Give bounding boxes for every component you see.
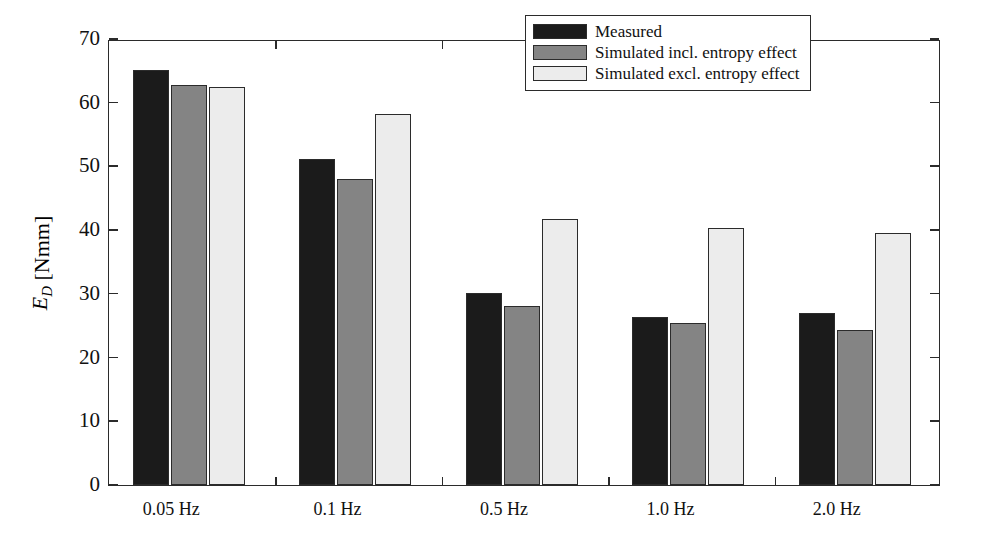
bar-measured: [632, 317, 668, 485]
bar-sim-excl: [708, 228, 744, 485]
legend-swatch: [533, 66, 587, 81]
x-axis-tick-mark: [608, 477, 610, 485]
bar-sim-excl: [542, 219, 578, 485]
y-axis-tick-mark: [109, 420, 118, 422]
plot-area: [109, 41, 939, 485]
y-axis-tick-label: 60: [79, 89, 100, 115]
x-axis-tick-mark: [275, 477, 277, 485]
bar-sim-excl: [875, 233, 911, 485]
legend-label: Simulated incl. entropy effect: [595, 43, 797, 63]
x-axis-category-label: 1.0 Hz: [646, 498, 694, 520]
bar-measured: [466, 293, 502, 485]
y-axis-tick-mark: [109, 229, 118, 231]
y-axis-tick-mark: [930, 420, 939, 422]
y-axis-title: ED [Nmm]: [22, 40, 62, 486]
legend-label: Measured: [595, 22, 662, 42]
y-axis-tick-mark: [109, 357, 118, 359]
y-axis-tick-mark: [930, 484, 939, 486]
x-axis-category-label: 0.05 Hz: [143, 498, 200, 520]
bar-sim-excl: [375, 114, 411, 485]
y-axis-tick-mark: [109, 484, 118, 486]
bar-sim-incl: [171, 85, 207, 485]
x-axis-tick-mark: [442, 477, 444, 485]
bar-sim-incl: [670, 323, 706, 485]
x-axis-category-label: 2.0 Hz: [813, 498, 861, 520]
x-axis-category-label: 0.5 Hz: [480, 498, 528, 520]
x-axis-tick-mark: [275, 41, 277, 49]
plot-frame: 010203040506070: [108, 40, 940, 486]
y-axis-tick-label: 20: [79, 344, 100, 370]
legend: MeasuredSimulated incl. entropy effectSi…: [525, 15, 811, 91]
y-axis-tick-mark: [930, 357, 939, 359]
legend-swatch: [533, 45, 587, 60]
y-axis-tick-label: 70: [79, 25, 100, 51]
bar-sim-excl: [209, 87, 245, 485]
y-axis-tick-mark: [930, 165, 939, 167]
y-axis-tick-label: 0: [90, 471, 101, 497]
y-axis-tick-mark: [109, 293, 118, 295]
y-axis-tick-label: 10: [79, 407, 100, 433]
legend-label: Simulated excl. entropy effect: [595, 64, 800, 84]
y-axis-tick-mark: [930, 293, 939, 295]
y-axis-tick-label: 30: [79, 280, 100, 306]
y-axis-title-symbol: ED: [27, 286, 56, 310]
y-axis-tick-label: 50: [79, 152, 100, 178]
legend-swatch: [533, 24, 587, 39]
x-axis-category-label: 0.1 Hz: [314, 498, 362, 520]
bar-sim-incl: [837, 330, 873, 485]
bar-chart-figure: ED [Nmm] 010203040506070 MeasuredSimulat…: [0, 0, 985, 539]
y-axis-tick-label: 40: [79, 216, 100, 242]
y-axis-title-unit: [Nmm]: [29, 216, 55, 281]
bar-measured: [133, 70, 169, 485]
y-axis-tick-mark: [930, 102, 939, 104]
y-axis-tick-mark: [109, 102, 118, 104]
x-axis-tick-mark: [442, 41, 444, 49]
y-axis-tick-mark: [930, 38, 939, 40]
bar-sim-incl: [337, 179, 373, 485]
legend-item: Simulated incl. entropy effect: [533, 42, 800, 63]
x-axis-tick-mark: [775, 477, 777, 485]
bar-measured: [799, 313, 835, 485]
bar-sim-incl: [504, 306, 540, 485]
y-axis-tick-mark: [930, 229, 939, 231]
y-axis-tick-mark: [109, 38, 118, 40]
legend-item: Simulated excl. entropy effect: [533, 63, 800, 84]
bar-measured: [299, 159, 335, 485]
legend-item: Measured: [533, 21, 800, 42]
y-axis-tick-mark: [109, 165, 118, 167]
